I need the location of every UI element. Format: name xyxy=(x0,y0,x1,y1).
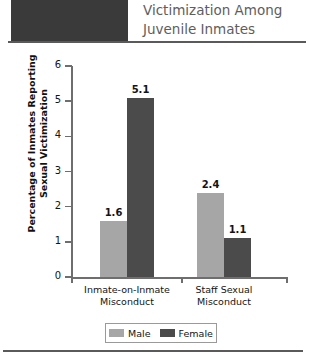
chart-legend: MaleFemale xyxy=(105,323,217,343)
x-axis-line xyxy=(71,277,286,279)
bar-value-label-female-group-2: 1.1 xyxy=(218,224,258,235)
bar-value-label-male-group-2: 2.4 xyxy=(191,179,231,190)
header-banner: Victimization Among Juvenile Inmates xyxy=(0,0,309,44)
bar-value-label-female-group-1: 5.1 xyxy=(121,84,161,95)
x-axis-separator-3 xyxy=(286,277,288,283)
x-axis-separator-2 xyxy=(181,277,183,283)
bar-female-group-2 xyxy=(224,238,251,277)
x-category-label-2-line-2: Misconduct xyxy=(164,296,284,308)
plot-area: 1.65.12.41.1 xyxy=(0,44,309,277)
bar-chart: Percentage of Inmates Reporting Sexual V… xyxy=(0,44,309,361)
header-color-block xyxy=(11,0,128,41)
x-axis-separator-1 xyxy=(71,277,73,283)
bar-female-group-1 xyxy=(127,98,154,277)
page-title: Victimization Among Juvenile Inmates xyxy=(143,1,305,39)
legend-label-female: Female xyxy=(179,328,213,339)
legend-swatch-female xyxy=(160,329,175,337)
header-divider-rule xyxy=(8,41,306,43)
x-category-label-2: Staff SexualMisconduct xyxy=(164,284,284,308)
page-title-line-2: Juvenile Inmates xyxy=(143,20,305,39)
legend-item-female[interactable]: Female xyxy=(160,328,213,339)
legend-item-male[interactable]: Male xyxy=(109,328,151,339)
legend-label-male: Male xyxy=(128,328,151,339)
bar-male-group-1 xyxy=(100,221,127,277)
x-category-label-2-line-1: Staff Sexual xyxy=(164,284,284,296)
page-title-line-1: Victimization Among xyxy=(143,1,305,20)
legend-swatch-male xyxy=(109,329,124,337)
footer-divider-rule xyxy=(3,350,303,352)
